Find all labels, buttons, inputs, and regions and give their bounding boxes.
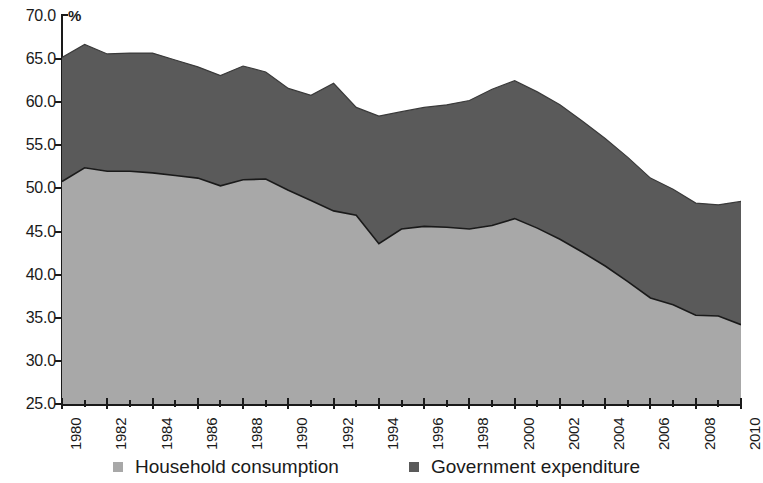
y-tick-mark: [55, 317, 62, 319]
y-axis-tick-labels: 70.065.060.055.050.045.040.035.030.025.0: [0, 0, 56, 420]
x-tick-mark: [536, 400, 538, 407]
x-tick-mark: [219, 400, 221, 407]
x-tick-label: 1980: [68, 418, 83, 450]
y-tick-mark: [55, 360, 62, 362]
x-tick-mark: [491, 400, 493, 407]
x-tick-mark: [265, 400, 267, 407]
chart-legend: Household consumption Government expendi…: [0, 455, 751, 481]
legend-label: Government expenditure: [431, 456, 640, 478]
x-tick-mark: [242, 398, 244, 409]
area-series-svg: [62, 16, 741, 404]
x-tick-label: 1986: [204, 418, 219, 450]
x-tick-mark: [197, 398, 199, 409]
legend-swatch-icon: [113, 462, 123, 472]
x-tick-mark: [695, 398, 697, 409]
x-tick-label: 1988: [249, 418, 264, 450]
y-tick-label: 50.0: [0, 180, 56, 196]
legend-label: Household consumption: [135, 456, 339, 478]
y-tick-mark: [55, 58, 62, 60]
x-tick-mark: [152, 398, 154, 409]
y-tick-label: 55.0: [0, 137, 56, 153]
x-tick-mark: [401, 400, 403, 407]
y-tick-label: 65.0: [0, 51, 56, 67]
y-tick-mark: [55, 231, 62, 233]
x-tick-label: 1982: [113, 418, 128, 450]
x-tick-mark: [423, 398, 425, 409]
x-tick-mark: [627, 400, 629, 407]
y-tick-label: 35.0: [0, 310, 56, 326]
x-tick-label: 2010: [747, 418, 762, 450]
y-tick-label: 60.0: [0, 94, 56, 110]
x-tick-mark: [559, 398, 561, 409]
x-tick-label: 1990: [294, 418, 309, 450]
x-tick-mark: [604, 398, 606, 409]
y-tick-mark: [55, 144, 62, 146]
y-tick-mark: [55, 101, 62, 103]
y-tick-label: 30.0: [0, 353, 56, 369]
x-tick-mark: [287, 398, 289, 409]
x-tick-mark: [446, 400, 448, 407]
x-tick-mark: [174, 400, 176, 407]
x-tick-mark: [129, 400, 131, 407]
x-tick-label: 1998: [475, 418, 490, 450]
x-tick-mark: [310, 400, 312, 407]
legend-item-government-expenditure[interactable]: Government expenditure: [409, 455, 640, 479]
x-tick-mark: [514, 398, 516, 409]
y-tick-mark: [55, 274, 62, 276]
x-tick-label: 1984: [159, 418, 174, 450]
x-tick-mark: [582, 400, 584, 407]
plot-area: [62, 16, 741, 404]
y-tick-label: 70.0: [0, 8, 56, 24]
x-tick-mark: [717, 400, 719, 407]
legend-swatch-icon: [409, 462, 419, 472]
x-tick-label: 1996: [430, 418, 445, 450]
y-tick-label: 45.0: [0, 224, 56, 240]
x-tick-label: 1992: [340, 418, 355, 450]
x-tick-mark: [649, 398, 651, 409]
x-tick-mark: [378, 398, 380, 409]
y-tick-mark: [55, 187, 62, 189]
x-tick-mark: [106, 398, 108, 409]
x-tick-mark: [84, 400, 86, 407]
x-tick-mark: [740, 398, 742, 409]
x-tick-mark: [333, 398, 335, 409]
x-tick-mark: [672, 400, 674, 407]
x-tick-label: 2008: [702, 418, 717, 450]
x-tick-mark: [355, 400, 357, 407]
x-tick-label: 2004: [611, 418, 626, 450]
x-tick-label: 1994: [385, 418, 400, 450]
x-tick-label: 2002: [566, 418, 581, 450]
x-axis-tick-labels: 1980198219841986198819901992199419961998…: [0, 406, 751, 454]
y-tick-label: 40.0: [0, 267, 56, 283]
x-tick-mark: [468, 398, 470, 409]
legend-item-household-consumption[interactable]: Household consumption: [113, 455, 339, 479]
x-tick-label: 2000: [521, 418, 536, 450]
x-tick-mark: [61, 398, 63, 409]
x-tick-label: 2006: [656, 418, 671, 450]
